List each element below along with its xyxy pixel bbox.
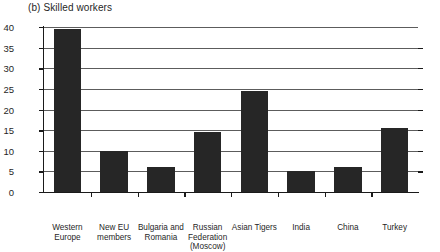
x-tick xyxy=(138,192,139,197)
y-axis-tick-label: 40 xyxy=(0,22,14,33)
x-tick xyxy=(278,192,279,197)
x-tick xyxy=(231,192,232,197)
bar xyxy=(381,128,408,192)
bar xyxy=(147,167,174,192)
y-tick-5 xyxy=(39,171,44,172)
y-axis-tick-label: 5 xyxy=(0,166,14,177)
y-tick-right-30 xyxy=(418,68,423,69)
x-tick xyxy=(184,192,185,197)
y-tick-30 xyxy=(39,68,44,69)
y-tick-10 xyxy=(39,151,44,152)
y-tick-right-20 xyxy=(418,110,423,111)
x-axis-category-label: Asian Tigers xyxy=(231,223,278,233)
gridline-35 xyxy=(44,48,418,49)
bar xyxy=(100,151,127,192)
y-tick-15 xyxy=(39,130,44,131)
y-axis-tick-label: 35 xyxy=(0,42,14,53)
y-axis-tick-label: 20 xyxy=(0,104,14,115)
x-axis-category-label: New EU members xyxy=(91,223,138,242)
y-axis-tick-label: 30 xyxy=(0,63,14,74)
gridline-15 xyxy=(44,130,418,131)
y-tick-40 xyxy=(39,27,44,28)
y-tick-right-5 xyxy=(418,171,423,172)
gridline-40 xyxy=(44,27,418,28)
gridline-20 xyxy=(44,110,418,111)
bar xyxy=(194,132,221,192)
y-tick-right-10 xyxy=(418,151,423,152)
y-tick-20 xyxy=(39,110,44,111)
bar xyxy=(287,171,314,192)
x-tick xyxy=(371,192,372,197)
gridline-25 xyxy=(44,89,418,90)
bar xyxy=(241,91,268,192)
y-tick-right-15 xyxy=(418,130,423,131)
x-axis-category-label: India xyxy=(278,223,325,233)
y-tick-0 xyxy=(39,192,44,193)
y-tick-35 xyxy=(39,48,44,49)
x-tick xyxy=(325,192,326,197)
y-axis-tick-label: 25 xyxy=(0,83,14,94)
chart-title: (b) Skilled workers xyxy=(28,2,112,13)
y-tick-right-35 xyxy=(418,48,423,49)
gridline-30 xyxy=(44,68,418,69)
y-tick-right-25 xyxy=(418,89,423,90)
x-axis-category-label: Bulgaria and Romania xyxy=(138,223,185,242)
y-tick-25 xyxy=(39,89,44,90)
y-axis-tick-label: 10 xyxy=(0,145,14,156)
bar xyxy=(54,29,81,192)
plot-area: 0510152025303540Western EuropeNew EU mem… xyxy=(44,27,418,192)
y-axis-tick-label: 15 xyxy=(0,125,14,136)
y-axis-tick-label: 0 xyxy=(0,187,14,198)
x-axis-category-label: Western Europe xyxy=(44,223,91,242)
x-axis-category-label: Russian Federation (Moscow) xyxy=(184,223,231,252)
x-axis-category-label: Turkey xyxy=(371,223,418,233)
bar xyxy=(334,167,361,192)
x-tick xyxy=(91,192,92,197)
x-axis-category-label: China xyxy=(325,223,372,233)
